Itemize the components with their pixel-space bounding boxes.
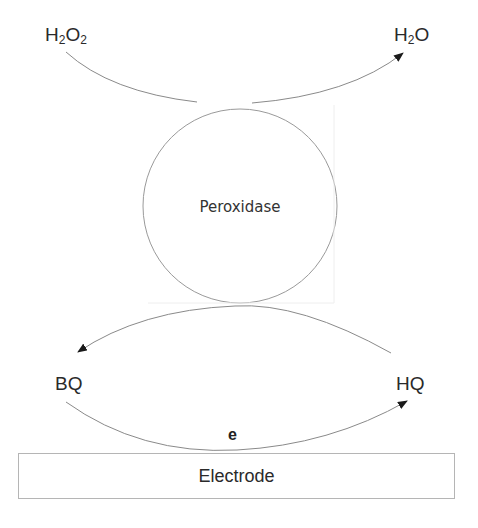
reoxidation-arc-arrow <box>78 306 391 353</box>
hq-label: HQ <box>396 373 425 395</box>
h2o-label: H2O <box>394 24 429 46</box>
electron-label: e <box>228 426 237 444</box>
product-arc-arrow <box>252 53 403 103</box>
diagram-canvas: H2O2 H2O Peroxidase BQ HQ e Electrode <box>0 0 478 528</box>
substrate-arc <box>66 52 197 102</box>
h2o2-label: H2O2 <box>45 24 87 46</box>
diagram-lines <box>0 0 478 528</box>
bq-label: BQ <box>55 373 82 395</box>
electrode-label: Electrode <box>198 466 274 487</box>
peroxidase-label: Peroxidase <box>170 198 310 216</box>
electrode-box: Electrode <box>18 453 455 499</box>
